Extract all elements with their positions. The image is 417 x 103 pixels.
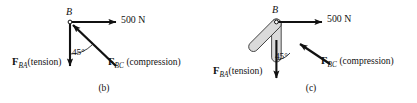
figure-root: B 500 N 45° FBA(tension) FBC (compressio… (0, 0, 417, 103)
load-label-500n-c: 500 N (327, 14, 351, 24)
joint-node-b (68, 20, 72, 24)
caption-c: (c) (286, 84, 336, 94)
force-state-fba-c: (tension) (229, 66, 263, 76)
force-state-fba-b: (tension) (28, 57, 62, 67)
force-subscript-fba-b: BA (18, 62, 27, 70)
joint-node-c (275, 20, 279, 24)
force-subscript-fbc-b: BC (114, 62, 124, 70)
free-body-diagram-c: B 500 N 45° FBA(tension) FBC (compressio… (208, 0, 417, 103)
force-label-fba-c: FBA(tension) (213, 66, 262, 79)
free-body-diagram-b: B 500 N 45° FBA(tension) FBC (compressio… (0, 0, 208, 103)
joint-label-c: B (272, 5, 278, 15)
force-subscript-fbc-c: BC (327, 61, 337, 69)
force-label-fbc-c: FBC (compression) (321, 56, 394, 69)
joint-label-b: B (66, 7, 72, 17)
angle-label-c: 45° (275, 52, 288, 61)
force-state-fbc-c: (compression) (339, 56, 393, 66)
force-label-fba-b: FBA(tension) (12, 57, 61, 70)
angle-label-b: 45° (72, 48, 85, 57)
force-state-fbc-b: (compression) (126, 57, 180, 67)
load-label-500n-b: 500 N (121, 15, 145, 25)
force-label-fbc-b: FBC (compression) (108, 57, 181, 70)
force-subscript-fba-c: BA (219, 71, 228, 79)
caption-b: (b) (79, 84, 129, 94)
